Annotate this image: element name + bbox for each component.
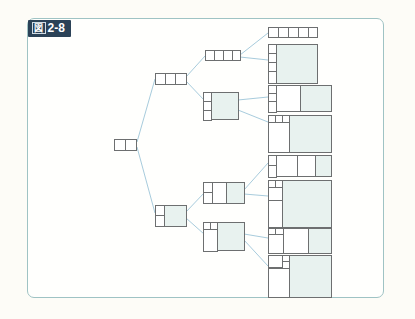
tile-cell xyxy=(300,85,332,112)
tile-cell xyxy=(226,182,245,204)
tile-cell xyxy=(308,228,332,254)
node-root[interactable] xyxy=(114,139,136,151)
tile-cell xyxy=(175,73,187,85)
tile-cell xyxy=(268,200,283,228)
tile-cell xyxy=(289,115,332,153)
tile-cell xyxy=(308,27,318,38)
node-n2a[interactable] xyxy=(203,182,244,204)
tile-cell xyxy=(203,229,218,252)
tile-cell xyxy=(211,92,239,120)
tile-cell xyxy=(268,187,283,201)
tile-cell xyxy=(289,255,332,298)
tile-cell xyxy=(276,44,318,84)
leaf-l7[interactable] xyxy=(268,228,331,252)
leaf-l4[interactable] xyxy=(268,115,331,151)
node-n1a[interactable] xyxy=(205,50,240,61)
tile-cell xyxy=(268,234,284,254)
tile-cell xyxy=(297,155,316,177)
figure-container: 図2-8 xyxy=(0,0,415,319)
tile-cell xyxy=(276,85,301,112)
leaf-l6[interactable] xyxy=(268,180,331,226)
tile-cell xyxy=(232,50,241,61)
node-n2[interactable] xyxy=(155,205,186,226)
tile-cell xyxy=(282,180,332,228)
leaf-l1[interactable] xyxy=(268,27,317,38)
tile-cell xyxy=(268,268,290,298)
tile-cell xyxy=(217,222,245,251)
tile-cell xyxy=(164,205,187,227)
node-n2b[interactable] xyxy=(203,222,244,250)
node-n1[interactable] xyxy=(155,73,186,85)
tile-cell xyxy=(125,139,137,151)
figure-label: 図2-8 xyxy=(28,20,71,37)
leaf-l2[interactable] xyxy=(268,44,317,82)
tile-cell xyxy=(276,155,298,177)
tile-cell xyxy=(268,255,283,268)
tile-cell xyxy=(212,182,227,204)
leaf-l3[interactable] xyxy=(268,85,331,111)
leaf-l5[interactable] xyxy=(268,155,331,176)
leaf-l8[interactable] xyxy=(268,255,331,296)
tile-cell xyxy=(283,228,309,254)
tile-cell xyxy=(268,122,290,153)
figure-label-kanji: 図 xyxy=(32,22,46,34)
tile-cell xyxy=(315,155,332,177)
figure-label-number: 2-8 xyxy=(48,22,65,34)
node-n1b[interactable] xyxy=(203,92,238,119)
